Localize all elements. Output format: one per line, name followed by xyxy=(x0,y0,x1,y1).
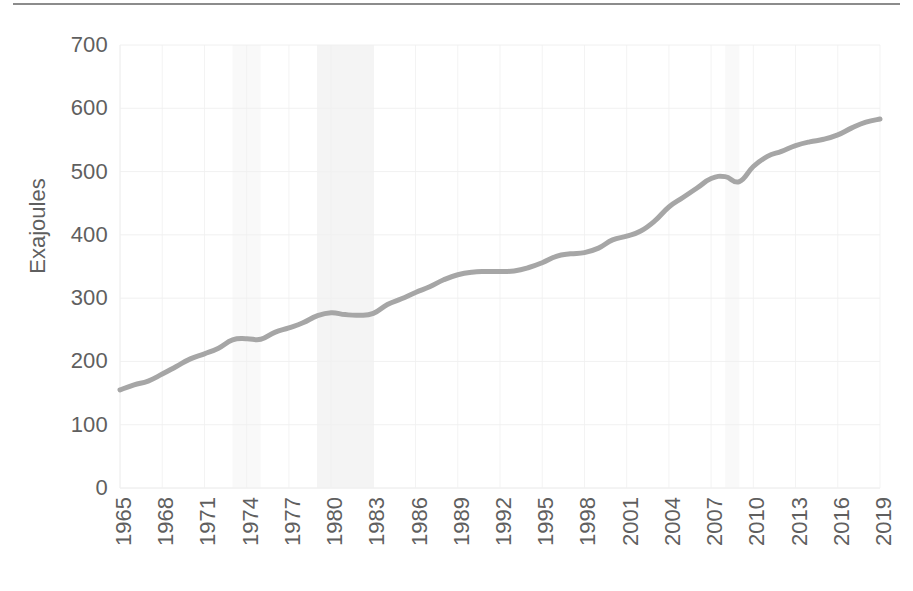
x-axis-tick-label: 2010 xyxy=(744,497,770,546)
x-axis-tick-label: 2016 xyxy=(829,497,855,546)
x-axis-tick-label: 1989 xyxy=(449,497,475,546)
x-axis-tick-label: 2001 xyxy=(618,497,644,546)
x-axis-tick-label: 2019 xyxy=(871,497,897,546)
x-axis-tick-label: 2013 xyxy=(787,497,813,546)
x-axis-tick-label: 1998 xyxy=(575,497,601,546)
x-axis-tick-label: 1965 xyxy=(111,497,137,546)
x-axis-tick-label: 1968 xyxy=(153,497,179,546)
x-axis-tick-label: 1986 xyxy=(407,497,433,546)
x-axis-tick-label: 1977 xyxy=(280,497,306,546)
x-axis-tick-label: 2004 xyxy=(660,497,686,546)
x-axis-tick-label: 1983 xyxy=(364,497,390,546)
x-axis-tick-label: 1980 xyxy=(322,497,348,546)
x-axis-tick-label: 2007 xyxy=(702,497,728,546)
x-axis-tick-labels: 1965196819711974197719801983198619891992… xyxy=(0,0,913,591)
x-axis-tick-label: 1974 xyxy=(238,497,264,546)
x-axis-tick-label: 1992 xyxy=(491,497,517,546)
x-axis-tick-label: 1971 xyxy=(195,497,221,546)
chart-figure: 7006005004003002001000 Exajoules 1965196… xyxy=(0,0,913,591)
x-axis-tick-label: 1995 xyxy=(533,497,559,546)
